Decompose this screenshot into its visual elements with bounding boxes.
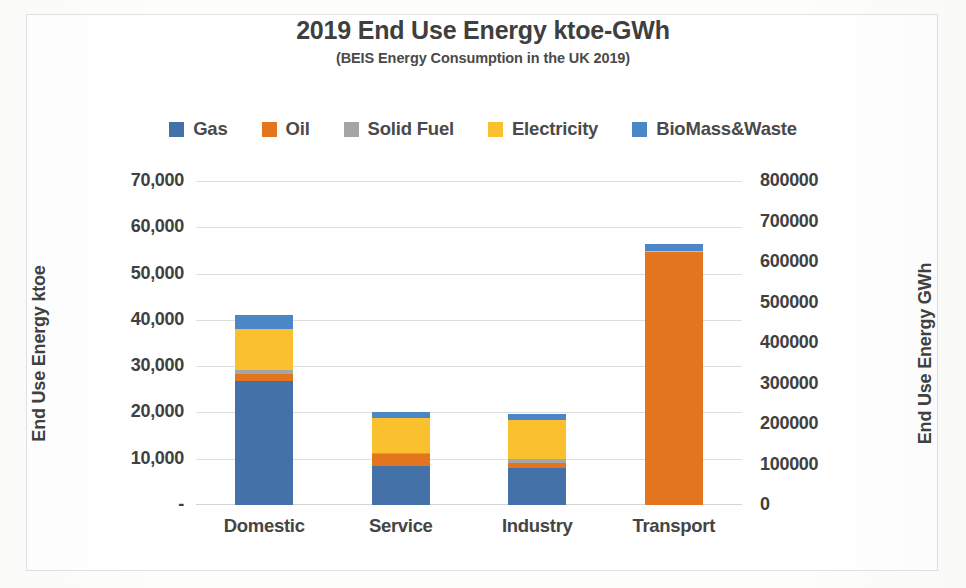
- y-axis-right-tick-label: 400000: [760, 332, 818, 353]
- x-axis-label: Transport: [606, 515, 743, 537]
- y-axis-right-tick-label: 200000: [760, 413, 818, 434]
- bar-segment[interactable]: [645, 252, 703, 505]
- legend-item[interactable]: Solid Fuel: [344, 118, 454, 140]
- chart-page: 2019 End Use Energy ktoe-GWh (BEIS Energ…: [0, 0, 966, 588]
- y-axis-left-tick-label: 60,000: [131, 216, 184, 237]
- y-axis-left-tick-label: 20,000: [131, 401, 184, 422]
- y-axis-left-tick-label: 70,000: [131, 170, 184, 191]
- bar-segment[interactable]: [235, 329, 293, 371]
- y-axis-right-tick-label: 800000: [760, 170, 818, 191]
- legend-swatch-icon: [344, 122, 359, 137]
- legend-swatch-icon: [262, 122, 277, 137]
- bar-segment[interactable]: [372, 466, 430, 505]
- legend-label: Electricity: [512, 118, 598, 140]
- y-axis-left-tick-labels: -10,00020,00030,00040,00050,00060,00070,…: [56, 0, 184, 588]
- x-axis-label: Domestic: [196, 515, 333, 537]
- y-axis-left-tick-label: 10,000: [131, 448, 184, 469]
- gridline: [196, 181, 742, 182]
- y-axis-right-tick-label: 300000: [760, 373, 818, 394]
- y-axis-right-tick-label: 600000: [760, 251, 818, 272]
- legend-swatch-icon: [488, 122, 503, 137]
- bar-segment[interactable]: [508, 468, 566, 505]
- bar-segment[interactable]: [372, 418, 430, 453]
- bar-column[interactable]: [508, 414, 566, 505]
- bar-segment[interactable]: [235, 381, 293, 505]
- y-axis-left-tick-label: -: [178, 494, 184, 515]
- plot-area: [196, 181, 742, 505]
- legend-label: Gas: [193, 118, 227, 140]
- x-axis-label: Service: [333, 515, 470, 537]
- y-axis-left-title: End Use Energy ktoe: [29, 239, 50, 469]
- bar-segment[interactable]: [508, 420, 566, 459]
- y-axis-right-tick-label: 500000: [760, 292, 818, 313]
- legend-label: Oil: [286, 118, 310, 140]
- legend-swatch-icon: [632, 122, 647, 137]
- y-axis-left-tick-label: 40,000: [131, 309, 184, 330]
- bar-segment[interactable]: [645, 244, 703, 251]
- y-axis-right-tick-labels: 0100000200000300000400000500000600000700…: [760, 0, 900, 588]
- bar-column[interactable]: [645, 244, 703, 506]
- y-axis-right-tick-label: 700000: [760, 211, 818, 232]
- legend-label: Solid Fuel: [368, 118, 454, 140]
- bar-column[interactable]: [235, 315, 293, 505]
- x-axis-label: Industry: [469, 515, 606, 537]
- bar-segment[interactable]: [235, 315, 293, 328]
- y-axis-right-tick-label: 0: [760, 494, 770, 515]
- bar-segment[interactable]: [372, 454, 430, 466]
- gridline: [196, 227, 742, 228]
- legend-item[interactable]: Oil: [262, 118, 310, 140]
- y-axis-right-tick-label: 100000: [760, 454, 818, 475]
- y-axis-left-tick-label: 50,000: [131, 263, 184, 284]
- legend-item[interactable]: Electricity: [488, 118, 598, 140]
- x-axis-category-labels: DomesticServiceIndustryTransport: [196, 515, 742, 537]
- y-axis-right-title: End Use Energy GWh: [915, 239, 936, 469]
- y-axis-left-tick-label: 30,000: [131, 355, 184, 376]
- bar-column[interactable]: [372, 412, 430, 505]
- bar-segment[interactable]: [235, 374, 293, 381]
